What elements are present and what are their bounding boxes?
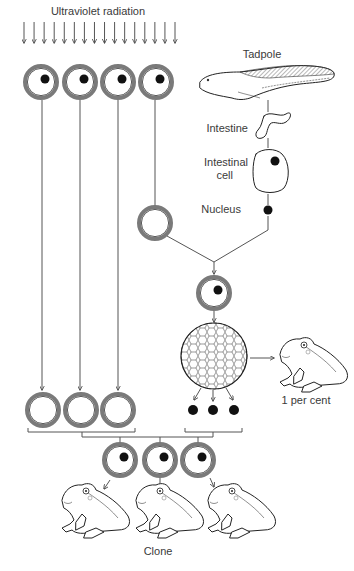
uv-arrows	[24, 22, 175, 43]
nucleus-label: Nucleus	[201, 203, 241, 215]
egg-cell	[140, 66, 172, 98]
enucleated-cell	[27, 394, 59, 426]
cell-membrane	[198, 277, 230, 309]
blastula-nucleus	[229, 405, 239, 415]
tadpole-drawing	[200, 65, 334, 99]
success-rate-label: 1 per cent	[282, 394, 331, 406]
cell-membrane	[104, 444, 136, 476]
intestinal-cell-drawing	[253, 150, 288, 193]
merge-lines	[167, 216, 268, 274]
enucleated-cell	[102, 394, 134, 426]
clone-cell	[104, 444, 136, 476]
blastula-nucleus	[208, 405, 218, 415]
cell-membrane	[139, 207, 171, 239]
clone-cell	[144, 444, 176, 476]
egg-descent-lines	[42, 100, 155, 390]
cell-nucleus	[118, 75, 127, 84]
cell-nucleus	[41, 75, 50, 84]
cell-membrane	[25, 66, 57, 98]
egg-cells-irradiated	[25, 66, 172, 98]
intestine-drawing	[256, 113, 291, 138]
cell-nucleus	[156, 75, 165, 84]
cell-nucleus	[198, 453, 207, 462]
enucleated-egg-cell	[139, 207, 171, 239]
cell-membrane	[102, 66, 134, 98]
enucleated-cell	[139, 207, 171, 239]
cell-membrane	[27, 394, 59, 426]
blastula-nucleus	[188, 405, 198, 415]
cell-membrane	[102, 394, 134, 426]
cell-membrane	[144, 444, 176, 476]
clone-frog-1	[62, 484, 130, 538]
egg-cell	[25, 66, 57, 98]
blastula-drawing	[181, 323, 247, 389]
adult-frog-drawing	[280, 338, 348, 392]
clone-frog-3	[208, 484, 276, 538]
egg-with-transplanted-nucleus	[198, 277, 230, 309]
blastula-nuclei-arrows	[194, 388, 233, 401]
tadpole-label: Tadpole	[243, 48, 282, 60]
clone-egg-cells	[104, 444, 214, 476]
clone-label: Clone	[144, 545, 173, 557]
combined-cell	[198, 277, 230, 309]
blastula-nuclei	[188, 405, 239, 415]
uv-radiation-label: Ultraviolet radiation	[51, 5, 145, 17]
intestinal-cell-label-line2: cell	[216, 169, 233, 181]
nuclear-transfer-diagram: Ultraviolet radiation Tadpole Intestine …	[0, 0, 354, 571]
cell-nucleus	[120, 453, 129, 462]
clone-frog-2	[136, 484, 204, 538]
egg-cell	[102, 66, 134, 98]
clone-cell	[182, 444, 214, 476]
cell-nucleus	[214, 286, 223, 295]
cell-membrane	[65, 394, 97, 426]
cell-membrane	[140, 66, 172, 98]
brackets	[28, 428, 242, 442]
egg-cell	[64, 66, 96, 98]
cell-nucleus	[80, 75, 89, 84]
cell-nucleus	[160, 453, 169, 462]
intestinal-cell-nucleus	[271, 157, 280, 166]
cell-membrane	[182, 444, 214, 476]
intestine-label: Intestine	[206, 122, 248, 134]
donor-nucleus	[264, 206, 273, 215]
enucleated-cell	[65, 394, 97, 426]
cell-membrane	[64, 66, 96, 98]
intestinal-cell-label-line1: Intestinal	[204, 156, 248, 168]
enucleated-eggs-bottom	[27, 394, 134, 426]
